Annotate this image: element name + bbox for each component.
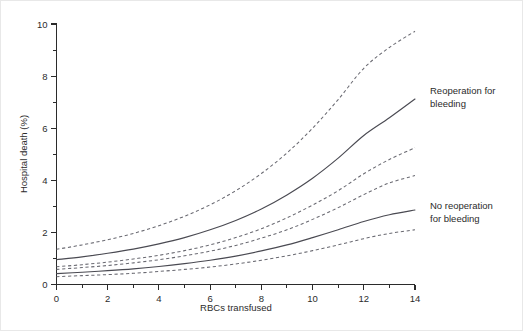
y-tick-label: 10	[37, 19, 48, 30]
curve-upper-ci	[57, 31, 416, 249]
x-axis-ticks	[57, 285, 416, 291]
annotation-reoperation-line2: bleeding	[430, 98, 466, 109]
x-tick-label: 12	[358, 293, 369, 304]
x-tick-label: 0	[54, 293, 59, 304]
x-tick-label: 2	[105, 293, 110, 304]
x-tick-label: 4	[156, 293, 161, 304]
x-tick-label: 14	[410, 293, 421, 304]
y-axis-title: Hospital death (%)	[18, 115, 29, 193]
data-curves	[57, 31, 416, 276]
y-axis-tick-labels: 0246810	[37, 19, 48, 291]
curve-lower-ci	[57, 148, 416, 267]
y-axis-ticks	[51, 24, 57, 285]
y-tick-label: 0	[42, 279, 47, 290]
line-chart: 02468101214 0246810 RBCs transfused Hosp…	[1, 1, 523, 331]
y-tick-label: 4	[42, 175, 47, 186]
annotation-reoperation-line1: Reoperation for	[430, 85, 495, 96]
y-tick-label: 8	[42, 71, 47, 82]
figure-page: 02468101214 0246810 RBCs transfused Hosp…	[0, 0, 523, 331]
annotation-no-reoperation-line1: No reoperation	[430, 200, 493, 211]
curve-estimate	[57, 210, 416, 274]
annotation-no-reoperation-line2: for bleeding	[430, 213, 480, 224]
chart-svg: 02468101214 0246810 RBCs transfused Hosp…	[1, 1, 523, 331]
x-axis-title: RBCs transfused	[200, 302, 272, 313]
x-tick-label: 10	[307, 293, 318, 304]
y-tick-label: 6	[42, 123, 47, 134]
curve-estimate	[57, 99, 416, 260]
y-tick-label: 2	[42, 227, 47, 238]
